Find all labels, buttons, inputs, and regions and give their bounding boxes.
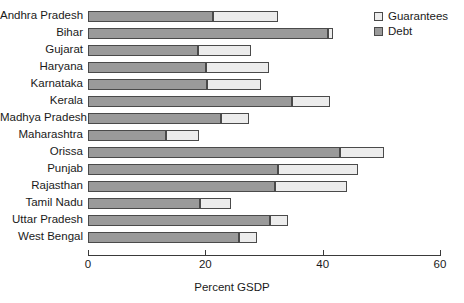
- bar-segment-guarantees: [166, 130, 199, 141]
- bar-segment-debt: [88, 164, 278, 175]
- bar-segment-debt: [88, 232, 239, 243]
- category-label-madhya-pradesh: Madhya Pradesh: [0, 112, 83, 123]
- legend-swatch-guarantees: [374, 12, 383, 21]
- category-label-andhra-pradesh: Andhra Pradesh: [0, 10, 83, 21]
- stacked-bar: [88, 147, 440, 158]
- chart-legend: Guarantees Debt: [374, 10, 448, 40]
- category-label-maharashtra: Maharashtra: [0, 129, 83, 140]
- bar-segment-guarantees: [221, 113, 249, 124]
- bar-segment-debt: [88, 198, 200, 209]
- bar-segment-debt: [88, 11, 213, 22]
- x-tick-label-0: 0: [85, 258, 91, 270]
- table-row: Karnataka: [0, 76, 464, 93]
- legend-label-guarantees: Guarantees: [388, 10, 448, 22]
- category-label-orissa: Orissa: [0, 146, 83, 157]
- x-tick-0: [88, 250, 89, 256]
- category-label-uttar-pradesh: Uttar Pradesh: [0, 214, 83, 225]
- table-row: Tamil Nadu: [0, 195, 464, 212]
- table-row: Maharashtra: [0, 127, 464, 144]
- bar-segment-guarantees: [213, 11, 278, 22]
- bar-segment-debt: [88, 79, 207, 90]
- bar-segment-debt: [88, 130, 166, 141]
- category-label-rajasthan: Rajasthan: [0, 180, 83, 191]
- bar-segment-debt: [88, 45, 198, 56]
- category-label-punjab: Punjab: [0, 163, 83, 174]
- x-tick-40: [323, 250, 324, 256]
- x-axis-line: [88, 255, 440, 256]
- x-tick-label-20: 20: [199, 258, 212, 270]
- stacked-bar: [88, 198, 440, 209]
- bar-segment-debt: [88, 215, 270, 226]
- bar-segment-debt: [88, 147, 340, 158]
- stacked-bar: [88, 232, 440, 243]
- stacked-bar: [88, 79, 440, 90]
- chart-container: Andhra PradeshBiharGujaratHaryanaKarnata…: [0, 0, 464, 303]
- bar-segment-debt: [88, 28, 328, 39]
- table-row: Gujarat: [0, 42, 464, 59]
- table-row: Kerala: [0, 93, 464, 110]
- x-tick-20: [205, 250, 206, 256]
- bar-segment-guarantees: [275, 181, 347, 192]
- category-label-haryana: Haryana: [0, 61, 83, 72]
- stacked-bar: [88, 62, 440, 73]
- table-row: Uttar Pradesh: [0, 212, 464, 229]
- bar-segment-debt: [88, 62, 206, 73]
- table-row: Haryana: [0, 59, 464, 76]
- bar-segment-guarantees: [270, 215, 288, 226]
- bar-segment-guarantees: [340, 147, 384, 158]
- stacked-bar: [88, 130, 440, 141]
- bar-segment-guarantees: [206, 62, 269, 73]
- category-label-west-bengal: West Bengal: [0, 231, 83, 242]
- stacked-bar: [88, 164, 440, 175]
- legend-label-debt: Debt: [388, 25, 412, 37]
- bar-segment-guarantees: [328, 28, 333, 39]
- stacked-bar: [88, 113, 440, 124]
- bar-segment-debt: [88, 181, 275, 192]
- bar-segment-guarantees: [278, 164, 358, 175]
- bar-segment-guarantees: [292, 96, 330, 107]
- x-tick-label-40: 40: [316, 258, 329, 270]
- stacked-bar: [88, 96, 440, 107]
- bar-segment-guarantees: [207, 79, 261, 90]
- stacked-bar: [88, 215, 440, 226]
- stacked-bar: [88, 45, 440, 56]
- bar-segment-debt: [88, 96, 292, 107]
- bar-segment-guarantees: [198, 45, 251, 56]
- stacked-bar: [88, 181, 440, 192]
- category-label-kerala: Kerala: [0, 95, 83, 106]
- category-label-tamil-nadu: Tamil Nadu: [0, 197, 83, 208]
- bar-segment-guarantees: [239, 232, 257, 243]
- category-label-bihar: Bihar: [0, 27, 83, 38]
- bar-segment-guarantees: [200, 198, 231, 209]
- table-row: West Bengal: [0, 229, 464, 246]
- table-row: Orissa: [0, 144, 464, 161]
- category-label-gujarat: Gujarat: [0, 44, 83, 55]
- legend-item-guarantees: Guarantees: [374, 10, 448, 22]
- category-label-karnataka: Karnataka: [0, 78, 83, 89]
- x-axis-title: Percent GSDP: [0, 281, 464, 293]
- table-row: Punjab: [0, 161, 464, 178]
- legend-swatch-debt: [374, 27, 383, 36]
- bar-segment-debt: [88, 113, 221, 124]
- table-row: Rajasthan: [0, 178, 464, 195]
- x-tick-60: [440, 250, 441, 256]
- legend-item-debt: Debt: [374, 25, 448, 37]
- table-row: Madhya Pradesh: [0, 110, 464, 127]
- x-tick-label-60: 60: [434, 258, 447, 270]
